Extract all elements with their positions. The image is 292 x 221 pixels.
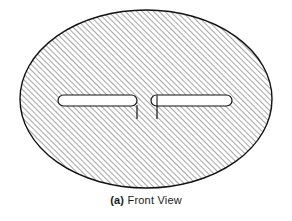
- figure-caption-label: (a): [110, 194, 124, 206]
- figure-caption-text: Front View: [127, 194, 181, 206]
- right-slot-body: [151, 95, 232, 106]
- front-view-drawing: [0, 0, 292, 221]
- left-slot-body: [58, 95, 137, 106]
- figure-container: (a) Front View: [0, 0, 292, 221]
- figure-caption: (a) Front View: [0, 194, 292, 206]
